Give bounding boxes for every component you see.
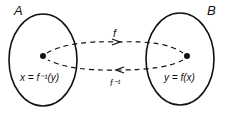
set-b-label: B bbox=[207, 3, 216, 18]
set-b-ellipse bbox=[146, 13, 214, 105]
inverse-mapping-curve bbox=[48, 60, 183, 70]
element-x-label: x = f⁻¹(y) bbox=[19, 72, 59, 83]
forward-arrowhead-icon bbox=[112, 39, 120, 45]
function-inverse-diagram: A B f f⁻¹ x = f⁻¹(y) y = f(x) bbox=[0, 0, 230, 117]
inverse-function-label: f⁻¹ bbox=[110, 78, 121, 88]
element-y-label: y = f(x) bbox=[163, 72, 195, 83]
set-a-ellipse bbox=[9, 14, 77, 106]
forward-function-label: f bbox=[113, 27, 117, 39]
point-y bbox=[184, 53, 190, 59]
point-x bbox=[40, 53, 46, 59]
set-a-label: A bbox=[13, 3, 23, 18]
